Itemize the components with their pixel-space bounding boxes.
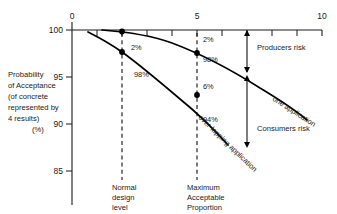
y-tick-label-90: 90 <box>54 119 64 129</box>
y-tick-label-100: 100 <box>49 25 63 35</box>
bottom-label-maximum-acceptable-proportion: Maximum Acceptable Proportion <box>187 183 225 212</box>
marker-one-app-map <box>194 50 200 56</box>
annotation-ndl-2-percent: 2% <box>131 43 142 52</box>
chart-figure: 0 5 10 100 95 90 85 Probability of Accep… <box>0 0 337 214</box>
annotation-map-one-2-percent: 2% <box>203 35 214 44</box>
y-axis-title-line-2: of Acceptance <box>8 81 56 90</box>
producers-risk-arrow <box>244 30 250 73</box>
y-axis-title-line-5: 4 results) <box>8 114 40 123</box>
x-tick-label-5: 5 <box>195 11 200 21</box>
label-producers-risk: Producers risk <box>257 43 306 52</box>
y-axis-title-line-1: Probability <box>8 70 44 79</box>
y-axis-title-line-6: (%) <box>32 125 44 134</box>
annotation-ndl-98-percent: 98% <box>134 70 149 79</box>
bottom-label-normal-design-level: Normal design level <box>112 183 137 212</box>
x-tick-label-10: 10 <box>317 11 327 21</box>
annotation-map-over-6-percent: 6% <box>203 82 214 91</box>
ndl-line-1: Normal <box>112 183 137 192</box>
marker-one-app-ndl <box>119 29 125 35</box>
y-axis-ticks <box>66 30 72 171</box>
map-line-2: Acceptable <box>187 193 225 202</box>
y-axis-title-line-3: (of concrete <box>8 92 48 101</box>
map-line-1: Maximum <box>187 183 220 192</box>
y-axis-title: Probability of Acceptance (of concrete r… <box>8 70 59 134</box>
annotation-map-one-98-percent: 98% <box>203 55 218 64</box>
operating-characteristic-chart: 0 5 10 100 95 90 85 Probability of Accep… <box>0 0 337 214</box>
x-tick-label-0: 0 <box>70 11 75 21</box>
y-axis-title-line-4: represented by <box>8 103 59 112</box>
marker-over-app-map <box>194 92 200 98</box>
ndl-line-3: level <box>112 203 128 212</box>
marker-over-app-ndl <box>119 49 125 55</box>
ndl-line-2: design <box>112 193 134 202</box>
map-line-3: Proportion <box>187 203 222 212</box>
label-consumers-risk: Consumers risk <box>257 124 310 133</box>
label-curve-over-lapping-application: over-lapping application <box>197 113 259 174</box>
consumers-risk-arrow <box>244 75 250 148</box>
y-tick-label-85: 85 <box>54 166 64 176</box>
